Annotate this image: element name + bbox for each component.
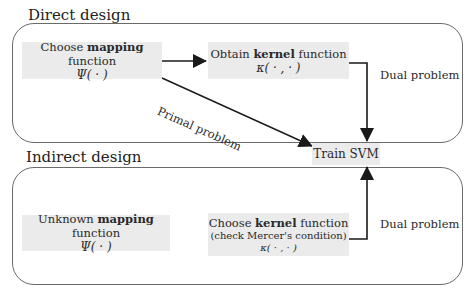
choose-kernel-node: Choose kernel function (check Mercer's c… (208, 213, 349, 256)
obtain-kernel-text: Obtain kernel function (210, 47, 346, 61)
mercer-condition-note: (check Mercer's condition) (210, 230, 346, 242)
direct-design-title: Direct design (28, 6, 130, 24)
kappa-symbol: κ( · , · ) (260, 242, 297, 254)
unknown-mapping-node: Unknown mapping function Ψ( · ) (22, 215, 170, 251)
kappa-symbol: κ( · , · ) (257, 61, 301, 75)
dual-problem-bottom-label: Dual problem (380, 217, 459, 231)
obtain-kernel-node: Obtain kernel function κ( · , · ) (208, 42, 349, 79)
unknown-mapping-text: Unknown mapping function (22, 212, 170, 240)
train-svm-node: Train SVM (312, 143, 380, 165)
indirect-design-title: Indirect design (26, 148, 141, 166)
choose-mapping-node: Choose mapping function Ψ( · ) (22, 42, 162, 79)
psi-symbol: Ψ( · ) (80, 240, 111, 254)
psi-symbol: Ψ( · ) (76, 68, 107, 82)
choose-mapping-text: Choose mapping function (22, 40, 162, 68)
dual-problem-top-label: Dual problem (380, 68, 459, 82)
choose-kernel-text: Choose kernel function (209, 216, 349, 230)
